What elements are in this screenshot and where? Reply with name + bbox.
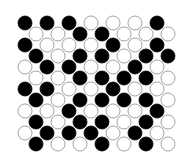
white-circle: [139, 27, 153, 41]
white-circle: [161, 93, 175, 107]
black-circle: [29, 115, 43, 129]
white-circle: [18, 126, 32, 140]
white-circle: [128, 104, 142, 118]
white-circle: [106, 16, 120, 30]
white-circle: [73, 137, 87, 151]
white-circle: [51, 93, 65, 107]
black-circle: [95, 49, 109, 63]
black-circle: [62, 16, 76, 30]
white-circle: [51, 49, 65, 63]
black-circle: [139, 115, 153, 129]
white-circle: [150, 126, 164, 140]
white-circle: [106, 126, 120, 140]
black-circle: [139, 71, 153, 85]
black-circle: [73, 27, 87, 41]
black-circle: [117, 71, 131, 85]
black-circle: [73, 71, 87, 85]
white-circle: [161, 137, 175, 151]
white-circle: [40, 104, 54, 118]
black-circle: [40, 60, 54, 74]
white-circle: [161, 71, 175, 85]
black-circle: [117, 93, 131, 107]
white-circle: [18, 104, 32, 118]
white-circle: [117, 49, 131, 63]
white-circle: [106, 104, 120, 118]
black-circle: [29, 93, 43, 107]
black-circle: [106, 82, 120, 96]
black-circle: [40, 82, 54, 96]
black-circle: [29, 137, 43, 151]
black-circle: [161, 49, 175, 63]
white-circle: [51, 27, 65, 41]
white-circle: [150, 82, 164, 96]
black-circle: [40, 16, 54, 30]
black-circle: [139, 49, 153, 63]
white-circle: [128, 38, 142, 52]
black-circle: [150, 104, 164, 118]
black-circle: [139, 137, 153, 151]
white-circle: [128, 82, 142, 96]
black-circle: [73, 49, 87, 63]
white-circle: [51, 137, 65, 151]
black-circle: [128, 126, 142, 140]
white-circle: [51, 71, 65, 85]
black-circle: [95, 137, 109, 151]
white-circle: [29, 71, 43, 85]
black-circle: [95, 93, 109, 107]
white-circle: [84, 38, 98, 52]
black-circle: [18, 38, 32, 52]
black-circle: [128, 60, 142, 74]
black-circle: [73, 93, 87, 107]
white-circle: [84, 16, 98, 30]
white-circle: [117, 27, 131, 41]
white-circle: [51, 115, 65, 129]
black-circle: [95, 71, 109, 85]
white-circle: [117, 115, 131, 129]
white-circle: [161, 115, 175, 129]
white-circle: [84, 104, 98, 118]
black-circle: [62, 104, 76, 118]
black-circle: [62, 60, 76, 74]
black-circle: [84, 126, 98, 140]
white-circle: [161, 27, 175, 41]
white-circle: [150, 60, 164, 74]
black-circle: [95, 27, 109, 41]
black-circle: [18, 82, 32, 96]
black-circle: [73, 115, 87, 129]
white-circle: [62, 38, 76, 52]
white-circle: [84, 60, 98, 74]
black-circle: [95, 115, 109, 129]
black-circle: [18, 16, 32, 30]
circle-grid: [0, 0, 184, 161]
white-circle: [18, 60, 32, 74]
black-circle: [40, 126, 54, 140]
white-circle: [106, 60, 120, 74]
white-circle: [128, 16, 142, 30]
circle-grid-diagram: [0, 0, 184, 161]
black-circle: [139, 93, 153, 107]
black-circle: [62, 126, 76, 140]
white-circle: [29, 27, 43, 41]
white-circle: [40, 38, 54, 52]
white-circle: [62, 82, 76, 96]
white-circle: [84, 82, 98, 96]
black-circle: [150, 16, 164, 30]
white-circle: [117, 137, 131, 151]
black-circle: [150, 38, 164, 52]
black-circle: [29, 49, 43, 63]
black-circle: [106, 38, 120, 52]
